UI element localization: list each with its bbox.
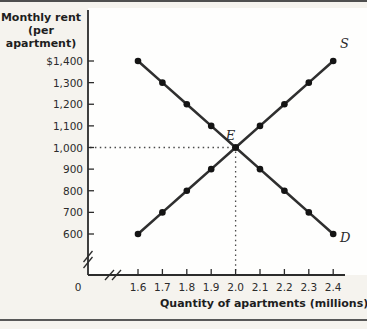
x-tick-label: 2.2: [276, 281, 293, 293]
supply-point: [330, 58, 337, 65]
chart-canvas: $1,4001,3001,2001,1001,0009008007006001.…: [0, 0, 367, 329]
demand-point: [232, 144, 239, 151]
x-tick-label: 1.8: [178, 281, 195, 293]
demand-point: [330, 231, 337, 238]
y-tick-label: 1,200: [53, 98, 83, 110]
y-tick-label: 900: [63, 163, 83, 175]
demand-point: [184, 101, 191, 108]
demand-point: [159, 79, 166, 86]
y-tick-label: 600: [63, 228, 83, 240]
x-axis-title: Quantity of apartments (millions): [160, 297, 364, 310]
supply-point: [159, 209, 166, 216]
bottom-rule: [0, 319, 367, 321]
y-tick-label: 1,100: [53, 120, 83, 132]
x-tick-label: 2.3: [300, 281, 317, 293]
supply-point: [184, 187, 191, 194]
supply-point: [257, 123, 264, 130]
supply-point: [306, 79, 313, 86]
y-tick-label: 800: [63, 185, 83, 197]
x-tick-label: 1.7: [154, 281, 171, 293]
y-tick-label: $1,400: [46, 55, 83, 67]
equilibrium-label: E: [225, 128, 236, 143]
x-tick-label: 1.6: [130, 281, 147, 293]
demand-point: [208, 123, 215, 130]
x-tick-label: 2.4: [325, 281, 342, 293]
x-tick-label: 1.9: [203, 281, 220, 293]
demand-curve-label: D: [339, 230, 351, 245]
y-tick-label: 700: [63, 206, 83, 218]
demand-point: [135, 58, 142, 65]
supply-curve-label: S: [340, 36, 349, 51]
supply-point: [135, 231, 142, 238]
demand-point: [281, 187, 288, 194]
supply-point: [281, 101, 288, 108]
y-tick-label: 1,300: [53, 77, 83, 89]
x-tick-label: 2.1: [252, 281, 269, 293]
demand-point: [257, 166, 264, 173]
supply-demand-figure: Monthly rent (per apartment) $1,4001,300…: [0, 0, 367, 329]
origin-label: 0: [75, 281, 82, 293]
supply-point: [208, 166, 215, 173]
x-tick-label: 2.0: [227, 281, 244, 293]
y-tick-label: 1,000: [53, 142, 83, 154]
demand-point: [306, 209, 313, 216]
